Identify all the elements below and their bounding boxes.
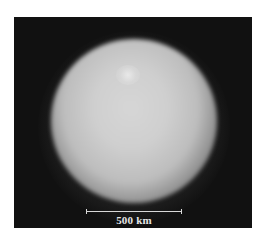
planetary-disk (51, 39, 217, 203)
scale-bar-label: 500 km (86, 214, 182, 226)
bright-spot (116, 65, 140, 85)
scale-bar-line (86, 211, 182, 212)
astronomical-image: 500 km (14, 17, 252, 228)
